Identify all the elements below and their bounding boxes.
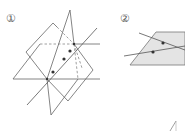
points (46, 43, 75, 80)
point-b (62, 57, 65, 60)
point-on-line-1 (161, 41, 164, 44)
point-a (51, 70, 54, 73)
figure-1 (13, 10, 100, 115)
figure-2-label: ② (120, 13, 130, 24)
figure-1-label: ① (6, 13, 16, 24)
partial-fragment (170, 121, 176, 131)
intersection-point-upper (73, 43, 75, 45)
tilted-plane (26, 23, 93, 101)
figure-2 (124, 32, 185, 65)
point-on-line-2 (151, 50, 154, 53)
vertical-plane (47, 10, 78, 115)
plane (130, 32, 185, 65)
geometry-figures (0, 0, 185, 133)
intersection-point-lower (46, 78, 48, 80)
point-c (68, 49, 71, 52)
